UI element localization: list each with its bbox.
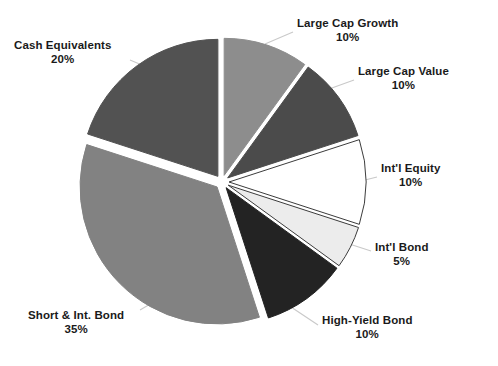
slice-label-name: Cash Equivalents xyxy=(14,38,111,52)
slice-label-name: Int'l Equity xyxy=(381,161,441,175)
slice-label-pct: 10% xyxy=(358,78,449,92)
slice-label-large-cap-value: Large Cap Value 10% xyxy=(358,64,449,92)
slice-label-name: Large Cap Value xyxy=(358,64,449,78)
slice-label-pct: 5% xyxy=(375,254,429,268)
slice-label-pct: 10% xyxy=(297,30,398,44)
slice-label-name: Int'l Bond xyxy=(375,240,429,254)
slice-label-pct: 10% xyxy=(381,175,441,189)
pie-chart: Large Cap Growth 10% Large Cap Value 10%… xyxy=(0,0,498,366)
slice-label-high-yield-bond: High-Yield Bond 10% xyxy=(322,313,413,341)
leader-line-large-cap-growth xyxy=(265,32,293,44)
slice-label-pct: 10% xyxy=(322,327,413,341)
slice-label-pct: 20% xyxy=(14,52,111,66)
slice-label-name: Large Cap Growth xyxy=(297,16,398,30)
slice-label-short-int-bond: Short & Int. Bond 35% xyxy=(28,308,124,336)
slice-label-pct: 35% xyxy=(28,322,124,336)
slice-label-name: Short & Int. Bond xyxy=(28,308,124,322)
pie-slices-group xyxy=(80,38,366,324)
slice-label-large-cap-growth: Large Cap Growth 10% xyxy=(297,16,398,44)
slice-label-name: High-Yield Bond xyxy=(322,313,413,327)
slice-label-cash-equivalents: Cash Equivalents 20% xyxy=(14,38,111,66)
slice-label-intl-bond: Int'l Bond 5% xyxy=(375,240,429,268)
slice-label-intl-equity: Int'l Equity 10% xyxy=(381,161,441,189)
